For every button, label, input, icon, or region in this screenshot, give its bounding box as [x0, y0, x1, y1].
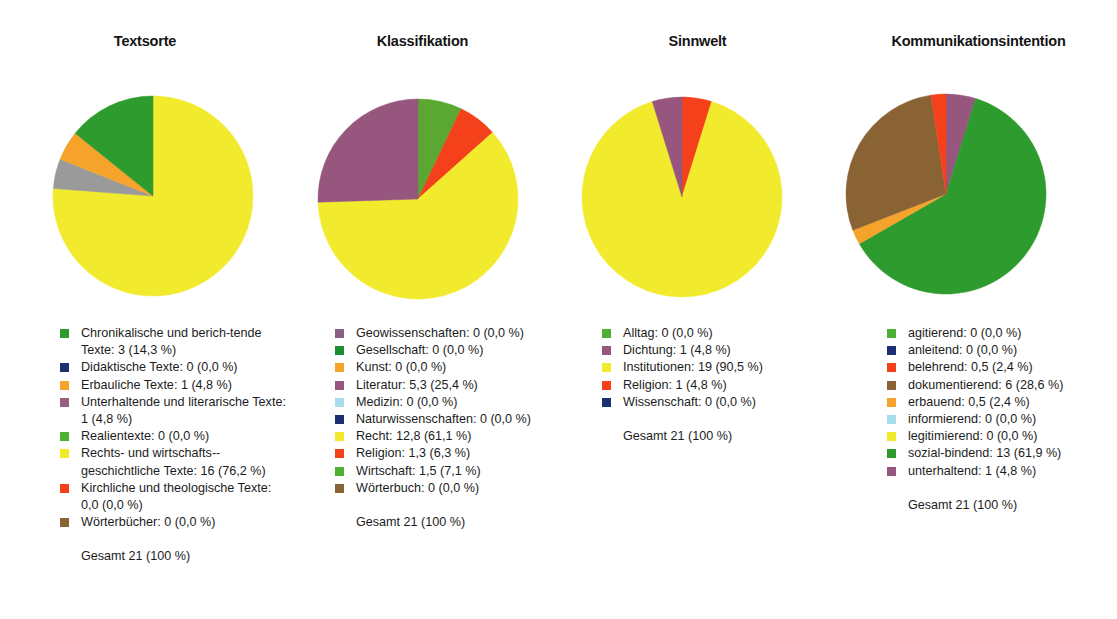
legend-item: Alltag: 0 (0,0 %) — [602, 325, 832, 342]
legend-item: Naturwissenschaften: 0 (0,0 %) — [335, 411, 560, 428]
chart-title: Klassifikation — [290, 33, 555, 49]
legend-item: agitierend: 0 (0,0 %) — [887, 325, 1117, 342]
legend-kommunikationsintention: agitierend: 0 (0,0 %)anleitend: 0 (0,0 %… — [887, 325, 1117, 514]
legend-item-label: legitimierend: 0 (0,0 %) — [908, 428, 1117, 445]
legend-item-label: Unterhaltende und literarische Texte: 1 … — [81, 394, 288, 428]
legend-swatch-icon — [335, 329, 344, 338]
legend-item-label: Religion: 1,3 (6,3 %) — [356, 445, 560, 462]
legend-swatch-icon — [602, 381, 611, 390]
legend-swatch-icon — [60, 381, 69, 390]
legend-item-label: erbauend: 0,5 (2,4 %) — [908, 394, 1117, 411]
pie-slices — [53, 96, 253, 296]
legend-swatch-icon — [887, 398, 896, 407]
legend-swatch-icon — [887, 381, 896, 390]
legend-item: Unterhaltende und literarische Texte: 1 … — [60, 394, 288, 428]
legend-swatch-icon — [60, 484, 69, 493]
legend-swatch-icon — [887, 415, 896, 424]
legend-swatch-icon — [60, 432, 69, 441]
legend-item-label: Wörterbücher: 0 (0,0 %) — [81, 514, 288, 531]
legend-item: Gesellschaft: 0 (0,0 %) — [335, 342, 560, 359]
legend-total: Gesamt 21 (100 %) — [887, 497, 1117, 514]
legend-item-label: Wörterbuch: 0 (0,0 %) — [356, 480, 560, 497]
legend-swatch-icon — [602, 346, 611, 355]
legend-item: Erbauliche Texte: 1 (4,8 %) — [60, 377, 288, 394]
legend-swatch-icon — [887, 432, 896, 441]
legend-swatch-icon — [887, 467, 896, 476]
pie-chart-sinnwelt — [581, 96, 783, 298]
legend-item: Realientexte: 0 (0,0 %) — [60, 428, 288, 445]
pie-slices — [582, 97, 782, 297]
legend-total: Gesamt 21 (100 %) — [602, 428, 832, 445]
legend-swatch-icon — [602, 329, 611, 338]
legend-items: Alltag: 0 (0,0 %)Dichtung: 1 (4,8 %)Inst… — [602, 325, 832, 411]
chart-title: Sinnwelt — [555, 33, 840, 49]
pie-slices — [846, 94, 1046, 294]
pie-chart-klassifikation — [317, 98, 519, 300]
legend-swatch-icon — [602, 363, 611, 372]
legend-item: belehrend: 0,5 (2,4 %) — [887, 359, 1117, 376]
pie-slice — [318, 99, 418, 202]
legend-swatch-icon — [335, 363, 344, 372]
legend-swatch-icon — [887, 363, 896, 372]
legend-item-label: Wissenschaft: 0 (0,0 %) — [623, 394, 832, 411]
legend-item-label: Naturwissenschaften: 0 (0,0 %) — [356, 411, 560, 428]
pie-svg — [52, 95, 254, 297]
legend-item-label: Rechts- und wirtschafts-­geschichtliche … — [81, 445, 288, 479]
legend-item-label: Recht: 12,8 (61,1 %) — [356, 428, 560, 445]
legend-item-label: informierend: 0 (0,0 %) — [908, 411, 1117, 428]
legend-item-label: dokumentierend: 6 (28,6 %) — [908, 377, 1117, 394]
legend-item-label: Geowissenschaften: 0 (0,0 %) — [356, 325, 560, 342]
legend-item: informierend: 0 (0,0 %) — [887, 411, 1117, 428]
legend-item-label: Dichtung: 1 (4,8 %) — [623, 342, 832, 359]
chart-panel-textsorte: Textsorte Chronikalische und berich-­ten… — [0, 0, 290, 619]
legend-item: Wörterbuch: 0 (0,0 %) — [335, 480, 560, 497]
chart-title: Kommunikationsintention — [840, 33, 1117, 49]
legend-item: Wörterbücher: 0 (0,0 %) — [60, 514, 288, 531]
pie-svg — [317, 98, 519, 300]
legend-items: Chronikalische und berich-­tende Texte: … — [60, 325, 288, 531]
legend-item: erbauend: 0,5 (2,4 %) — [887, 394, 1117, 411]
legend-item-label: sozial-bindend: 13 (61,9 %) — [908, 445, 1117, 462]
legend-swatch-icon — [887, 346, 896, 355]
legend-item-label: Religion: 1 (4,8 %) — [623, 377, 832, 394]
legend-item: dokumentierend: 6 (28,6 %) — [887, 377, 1117, 394]
legend-item-label: agitierend: 0 (0,0 %) — [908, 325, 1117, 342]
legend-textsorte: Chronikalische und berich-­tende Texte: … — [60, 325, 288, 566]
legend-item: Dichtung: 1 (4,8 %) — [602, 342, 832, 359]
legend-item: Religion: 1,3 (6,3 %) — [335, 445, 560, 462]
legend-item: legitimierend: 0 (0,0 %) — [887, 428, 1117, 445]
legend-total: Gesamt 21 (100 %) — [60, 548, 288, 565]
legend-item-label: Gesellschaft: 0 (0,0 %) — [356, 342, 560, 359]
legend-swatch-icon — [60, 518, 69, 527]
legend-item-label: Alltag: 0 (0,0 %) — [623, 325, 832, 342]
legend-item-label: Realientexte: 0 (0,0 %) — [81, 428, 288, 445]
legend-item-label: Medizin: 0 (0,0 %) — [356, 394, 560, 411]
legend-items: Geowissenschaften: 0 (0,0 %)Gesellschaft… — [335, 325, 560, 497]
legend-swatch-icon — [335, 467, 344, 476]
legend-total: Gesamt 21 (100 %) — [335, 514, 560, 531]
legend-swatch-icon — [335, 415, 344, 424]
legend-swatch-icon — [60, 449, 69, 458]
legend-swatch-icon — [335, 398, 344, 407]
legend-swatch-icon — [60, 363, 69, 372]
legend-item: Chronikalische und berich-­tende Texte: … — [60, 325, 288, 359]
legend-item-label: Chronikalische und berich-­tende Texte: … — [81, 325, 288, 359]
legend-item: Geowissenschaften: 0 (0,0 %) — [335, 325, 560, 342]
pie-chart-kommunikationsintention — [845, 93, 1047, 295]
legend-item-label: Kirchliche und theologische Texte: 0,0 (… — [81, 480, 288, 514]
legend-swatch-icon — [602, 398, 611, 407]
legend-sinnwelt: Alltag: 0 (0,0 %)Dichtung: 1 (4,8 %)Inst… — [602, 325, 832, 445]
legend-item-label: Kunst: 0 (0,0 %) — [356, 359, 560, 376]
legend-item: Religion: 1 (4,8 %) — [602, 377, 832, 394]
legend-item: Wirtschaft: 1,5 (7,1 %) — [335, 463, 560, 480]
legend-item: Wissenschaft: 0 (0,0 %) — [602, 394, 832, 411]
legend-swatch-icon — [335, 484, 344, 493]
legend-item: Institutionen: 19 (90,5 %) — [602, 359, 832, 376]
legend-item: Literatur: 5,3 (25,4 %) — [335, 377, 560, 394]
legend-item-label: Institutionen: 19 (90,5 %) — [623, 359, 832, 376]
legend-swatch-icon — [335, 449, 344, 458]
legend-item: Kirchliche und theologische Texte: 0,0 (… — [60, 480, 288, 514]
legend-item: Rechts- und wirtschafts-­geschichtliche … — [60, 445, 288, 479]
legend-items: agitierend: 0 (0,0 %)anleitend: 0 (0,0 %… — [887, 325, 1117, 480]
legend-swatch-icon — [887, 329, 896, 338]
